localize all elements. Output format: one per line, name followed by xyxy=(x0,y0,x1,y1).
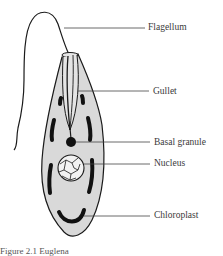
figure-caption: Figure 2.1 Euglena xyxy=(0,246,69,256)
nucleus-shape xyxy=(58,155,84,181)
label-gullet: Gullet xyxy=(153,86,177,96)
label-basal-granule: Basal granule xyxy=(154,137,206,147)
basal-granule-shape xyxy=(66,137,76,147)
label-chloroplast: Chloroplast xyxy=(154,210,198,220)
label-flagellum: Flagellum xyxy=(148,22,187,32)
label-nucleus: Nucleus xyxy=(154,158,185,168)
